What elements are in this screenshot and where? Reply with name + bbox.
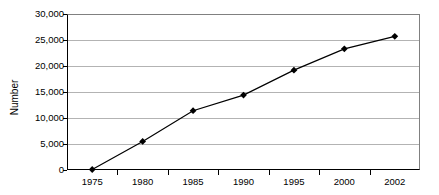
y-axis-tick-label: 15,000	[22, 87, 64, 97]
data-point-marker	[139, 138, 146, 145]
line-chart: Number 05,00010,00015,00020,00025,00030,…	[0, 0, 439, 195]
y-axis-tick-label: 25,000	[22, 35, 64, 45]
x-axis-tick-labels: 1975198019851990199520002002	[67, 176, 420, 192]
plot-area	[67, 14, 420, 170]
series-markers-number	[89, 33, 398, 173]
x-axis-tick-label: 1985	[182, 176, 203, 188]
x-axis-tick-mark	[319, 170, 320, 175]
series-line-number	[92, 36, 395, 169]
x-axis-tick-label: 1975	[82, 176, 103, 188]
x-axis-tick-label: 2000	[334, 176, 355, 188]
data-point-marker	[341, 45, 348, 52]
x-axis-tick-label: 1995	[283, 176, 304, 188]
y-axis-tick-label: 30,000	[22, 9, 64, 19]
x-axis-tick-mark	[117, 170, 118, 175]
x-axis-tick-mark	[269, 170, 270, 175]
data-point-marker	[190, 107, 197, 114]
x-axis-tick-label: 1980	[132, 176, 153, 188]
y-axis-tick-label: 5,000	[22, 139, 64, 149]
y-axis-tick-label: 20,000	[22, 61, 64, 71]
data-point-marker	[291, 67, 298, 74]
data-point-marker	[240, 92, 247, 99]
y-axis-tick-mark	[63, 170, 67, 171]
y-axis-tick-mark	[63, 144, 67, 145]
y-axis-tick-label: 10,000	[22, 113, 64, 123]
y-axis-tick-label: 0	[22, 165, 64, 175]
x-axis-tick-mark	[370, 170, 371, 175]
x-axis-tick-mark	[218, 170, 219, 175]
y-axis-tick-mark	[63, 66, 67, 67]
x-axis-tick-label: 2002	[384, 176, 405, 188]
x-axis-tick-label: 1990	[233, 176, 254, 188]
y-axis-tick-labels: 05,00010,00015,00020,00025,00030,000	[22, 0, 64, 195]
x-axis-tick-mark	[168, 170, 169, 175]
y-axis-tick-mark	[63, 40, 67, 41]
y-axis-tick-mark	[63, 14, 67, 15]
data-point-marker	[391, 33, 398, 40]
series-layer	[67, 14, 420, 170]
y-axis-tick-mark	[63, 92, 67, 93]
y-axis-tick-mark	[63, 118, 67, 119]
